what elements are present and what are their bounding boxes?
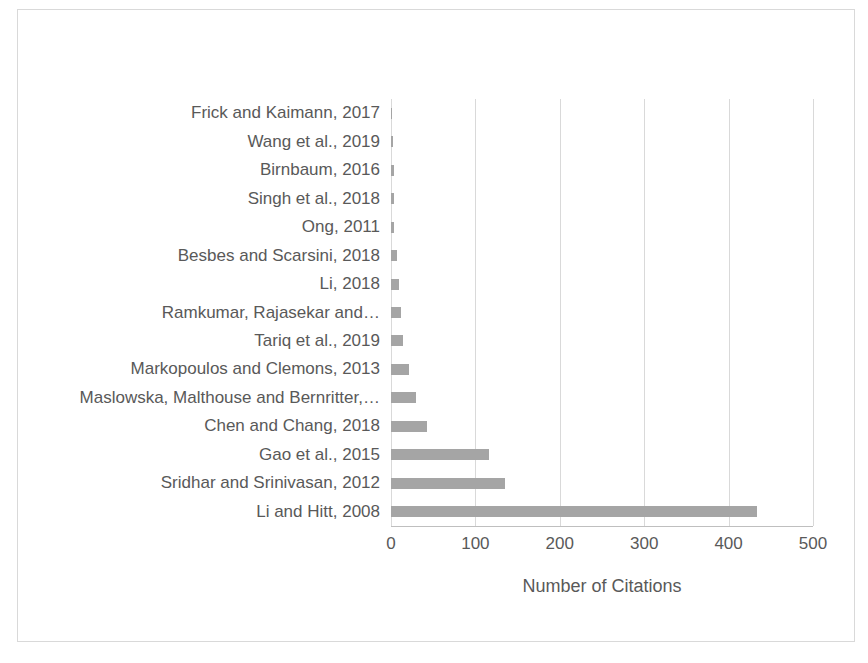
bar-row bbox=[391, 99, 813, 127]
x-tick-label: 300 bbox=[630, 534, 658, 554]
bar-row bbox=[391, 355, 813, 383]
bar bbox=[391, 250, 397, 261]
bar-row bbox=[391, 156, 813, 184]
bar-row bbox=[391, 384, 813, 412]
category-label: Sridhar and Srinivasan, 2012 bbox=[161, 474, 380, 491]
bar bbox=[391, 222, 394, 233]
bar-row bbox=[391, 412, 813, 440]
x-tick-label: 500 bbox=[799, 534, 827, 554]
bar bbox=[391, 478, 505, 489]
bar bbox=[391, 136, 393, 147]
category-label: Birnbaum, 2016 bbox=[260, 161, 380, 178]
x-axis-title: Number of Citations bbox=[391, 576, 813, 597]
category-label: Besbes and Scarsini, 2018 bbox=[178, 247, 380, 264]
bar bbox=[391, 364, 409, 375]
category-label: Maslowska, Malthouse and Bernritter,… bbox=[80, 389, 380, 406]
bar-row bbox=[391, 241, 813, 269]
x-tick-label: 400 bbox=[714, 534, 742, 554]
category-label: Chen and Chang, 2018 bbox=[204, 417, 380, 434]
category-axis-labels: Frick and Kaimann, 2017Wang et al., 2019… bbox=[18, 99, 386, 526]
bar bbox=[391, 165, 394, 176]
category-label: Tariq et al., 2019 bbox=[254, 332, 380, 349]
bar-row bbox=[391, 441, 813, 469]
bar-row bbox=[391, 327, 813, 355]
bar bbox=[391, 307, 401, 318]
bar bbox=[391, 392, 416, 403]
bar bbox=[391, 449, 489, 460]
x-axis-line bbox=[391, 526, 813, 527]
bar bbox=[391, 506, 757, 517]
bar-row bbox=[391, 270, 813, 298]
gridline-500 bbox=[813, 99, 814, 526]
bar bbox=[391, 193, 394, 204]
bar bbox=[391, 421, 427, 432]
bar-row bbox=[391, 298, 813, 326]
bar bbox=[391, 108, 392, 119]
x-tick-label: 200 bbox=[546, 534, 574, 554]
bar-row bbox=[391, 184, 813, 212]
category-label: Wang et al., 2019 bbox=[247, 133, 380, 150]
chart-frame: Frick and Kaimann, 2017Wang et al., 2019… bbox=[17, 9, 855, 642]
category-label: Markopoulos and Clemons, 2013 bbox=[131, 360, 380, 377]
category-label: Gao et al., 2015 bbox=[259, 446, 380, 463]
category-label: Li and Hitt, 2008 bbox=[256, 503, 380, 520]
bar-row bbox=[391, 469, 813, 497]
bar bbox=[391, 279, 399, 290]
category-label: Singh et al., 2018 bbox=[248, 190, 380, 207]
category-label: Li, 2018 bbox=[320, 275, 381, 292]
bar bbox=[391, 335, 403, 346]
bar-row bbox=[391, 213, 813, 241]
category-label: Ramkumar, Rajasekar and… bbox=[162, 304, 380, 321]
x-axis-tick-labels: 0100200300400500 bbox=[391, 534, 813, 560]
plot-area bbox=[391, 99, 813, 526]
x-tick-label: 0 bbox=[386, 534, 395, 554]
category-label: Ong, 2011 bbox=[302, 218, 380, 235]
bar-row bbox=[391, 127, 813, 155]
x-tick-label: 100 bbox=[461, 534, 489, 554]
category-label: Frick and Kaimann, 2017 bbox=[191, 104, 380, 121]
bar-row bbox=[391, 498, 813, 526]
